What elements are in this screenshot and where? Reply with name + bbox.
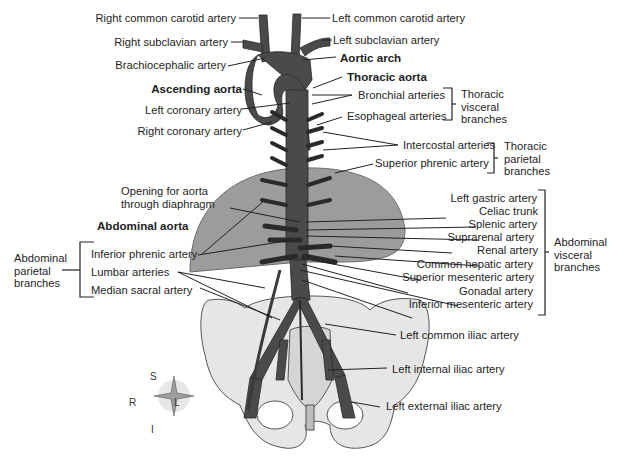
label-bronchial: Bronchial arteries <box>358 89 445 102</box>
group-abdominal-parietal: Abdominal parietal branches <box>14 252 67 290</box>
aorta-diagram: Right common carotid artery Right subcla… <box>0 0 620 457</box>
label-right-common-carotid: Right common carotid artery <box>95 12 236 25</box>
label-splenic: Splenic artery <box>469 218 537 231</box>
label-right-subclavian: Right subclavian artery <box>114 36 228 49</box>
label-left-internal-iliac: Left internal iliac artery <box>392 363 505 376</box>
label-left-common-carotid: Left common carotid artery <box>332 12 465 25</box>
label-intercostal: Intercostal arteries <box>403 139 495 152</box>
label-inferior-mesenteric: Inferior mesenteric artery <box>409 298 533 311</box>
compass-right: R <box>129 397 136 408</box>
label-suprarenal: Suprarenal artery <box>448 231 534 244</box>
label-celiac-trunk: Celiac trunk <box>479 205 538 218</box>
label-superior-phrenic: Superior phrenic artery <box>375 157 489 170</box>
label-brachiocephalic: Brachiocephalic artery <box>115 59 226 72</box>
label-right-coronary: Right coronary artery <box>138 125 242 138</box>
label-median-sacral: Median sacral artery <box>91 284 192 297</box>
compass-inferior: I <box>151 424 154 435</box>
label-ascending-aorta: Ascending aorta <box>151 82 242 95</box>
label-superior-mesenteric: Superior mesenteric artery <box>402 271 534 284</box>
compass-superior: S <box>150 371 157 382</box>
label-opening-diaphragm: Opening for aorta through diaphragm <box>121 185 215 210</box>
compass-left: L <box>174 397 180 408</box>
group-abdominal-visceral: Abdominal visceral branches <box>554 236 607 274</box>
label-thoracic-aorta: Thoracic aorta <box>347 70 427 83</box>
label-left-external-iliac: Left external iliac artery <box>386 400 502 413</box>
label-left-gastric: Left gastric artery <box>451 192 537 205</box>
label-aortic-arch: Aortic arch <box>340 51 401 64</box>
group-thoracic-visceral: Thoracic visceral branches <box>461 88 507 126</box>
label-esophageal: Esophageal arteries <box>347 110 447 123</box>
group-thoracic-parietal: Thoracic parietal branches <box>504 140 550 178</box>
label-left-subclavian: Left subclavian artery <box>333 34 439 47</box>
label-inferior-phrenic: Inferior phrenic artery <box>91 248 197 261</box>
label-renal: Renal artery <box>477 244 538 257</box>
label-left-common-iliac: Left common iliac artery <box>400 329 519 342</box>
label-abdominal-aorta: Abdominal aorta <box>97 219 188 232</box>
compass-rose <box>154 376 194 416</box>
label-lumbar: Lumbar arteries <box>91 266 169 279</box>
label-left-coronary: Left coronary artery <box>145 104 242 117</box>
label-gonadal: Gonadal artery <box>459 285 533 298</box>
label-common-hepatic: Common hepatic artery <box>417 258 533 271</box>
